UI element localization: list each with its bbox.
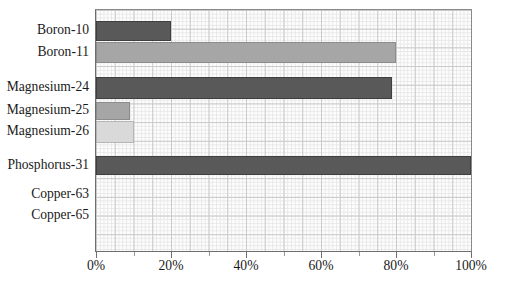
bar-phosphorus-31 — [96, 156, 471, 175]
y-axis-label-magnesium-25: Magnesium-25 — [0, 102, 89, 117]
x-tick-label-80pct: 80% — [366, 258, 426, 274]
y-axis-label-magnesium-24: Magnesium-24 — [0, 79, 89, 94]
bar-magnesium-24 — [96, 77, 392, 99]
x-tick-mark-minor — [209, 252, 210, 256]
y-axis-label-phosphorus-31: Phosphorus-31 — [0, 157, 89, 172]
x-tick-label-100pct: 100% — [441, 258, 501, 274]
x-tick-mark-minor — [284, 252, 285, 256]
y-axis-label-copper-65: Copper-65 — [0, 207, 89, 222]
bar-boron-11 — [96, 42, 396, 63]
bar-chart: Boron-10Boron-11Magnesium-24Magnesium-25… — [0, 0, 506, 282]
x-tick-label-40pct: 40% — [216, 258, 276, 274]
y-axis-label-copper-63: Copper-63 — [0, 186, 89, 201]
y-axis-label-magnesium-26: Magnesium-26 — [0, 123, 89, 138]
x-tick-label-0pct: 0% — [66, 258, 126, 274]
bar-boron-10 — [96, 21, 171, 41]
bar-magnesium-26 — [96, 121, 134, 143]
y-axis-label-boron-10: Boron-10 — [0, 22, 89, 37]
y-axis-label-boron-11: Boron-11 — [0, 44, 89, 59]
x-tick-mark-minor — [359, 252, 360, 256]
x-tick-label-20pct: 20% — [141, 258, 201, 274]
plot-area — [95, 9, 472, 252]
bar-magnesium-25 — [96, 102, 130, 120]
x-tick-label-60pct: 60% — [291, 258, 351, 274]
x-tick-mark-minor — [434, 252, 435, 256]
x-tick-mark-minor — [134, 252, 135, 256]
